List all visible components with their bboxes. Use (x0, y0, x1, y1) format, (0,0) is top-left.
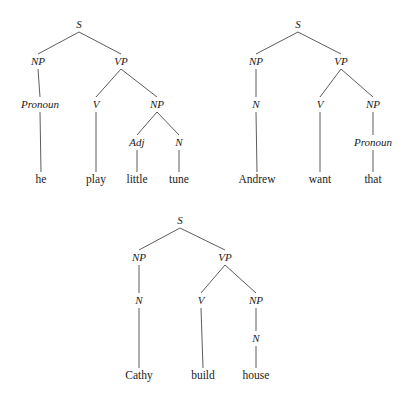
tree-node-label-v: V (317, 98, 325, 110)
tree-node-label-n: N (174, 136, 183, 148)
tree-edges-layer (38, 32, 373, 368)
tree-leaf-edge (256, 112, 257, 172)
tree-node-label-np: NP (131, 251, 146, 263)
tree-edge (137, 112, 157, 135)
tree-node-label-np: NP (248, 294, 263, 306)
tree-leaf-word: that (364, 173, 382, 185)
tree-leaf-word: little (126, 173, 147, 185)
tree-leaf-word: build (191, 369, 215, 381)
tree-node-label-np: NP (30, 55, 45, 67)
tree-node-label-np: NP (248, 55, 263, 67)
tree-leaf-word: Andrew (238, 173, 276, 185)
tree-edge (79, 32, 121, 54)
syntax-tree-diagram-group: SNPVPPronounVNPAdjNheplaylittletuneSNPVP… (0, 0, 409, 400)
tree-edge (157, 112, 179, 135)
tree-edge (38, 69, 40, 97)
tree-node-label-s: S (177, 214, 183, 226)
tree-node-label-pronoun: Pronoun (20, 98, 60, 110)
tree-leaf-word: he (36, 173, 47, 185)
tree-node-label-s: S (76, 18, 82, 30)
tree-leaf-word: tune (169, 173, 189, 185)
tree-leaf-edge (40, 112, 41, 172)
tree-node-label-np: NP (365, 98, 380, 110)
tree-edge (298, 32, 341, 54)
tree-node-label-np: NP (149, 98, 164, 110)
tree-edge (225, 265, 256, 293)
tree-leaf-word: Cathy (125, 369, 153, 382)
tree-edge (121, 69, 157, 97)
tree-labels-layer: SNPVPPronounVNPAdjNheplaylittletuneSNPVP… (20, 18, 393, 382)
tree-edge (201, 265, 225, 293)
tree-edge (96, 69, 121, 97)
tree-node-label-n: N (251, 332, 260, 344)
tree-node-label-s: S (295, 18, 301, 30)
tree-leaf-word: house (243, 369, 270, 381)
tree-node-label-v: V (93, 98, 101, 110)
tree-node-label-pronoun: Pronoun (353, 136, 393, 148)
tree-leaf-word: want (309, 173, 332, 185)
tree-leaf-word: play (86, 173, 106, 186)
tree-edge (38, 32, 79, 54)
tree-leaf-edge (201, 308, 203, 368)
tree-edge (256, 32, 298, 54)
syntax-tree-canvas: SNPVPPronounVNPAdjNheplaylittletuneSNPVP… (0, 0, 409, 400)
tree-node-label-vp: VP (334, 55, 348, 67)
tree-node-label-adj: Adj (128, 136, 144, 148)
tree-node-label-n: N (251, 98, 260, 110)
tree-node-label-v: V (198, 294, 206, 306)
tree-node-label-vp: VP (218, 251, 232, 263)
tree-node-label-vp: VP (114, 55, 128, 67)
tree-edge (139, 228, 180, 250)
tree-edge (180, 228, 225, 250)
tree-edge (320, 69, 341, 97)
tree-node-label-n: N (134, 294, 143, 306)
tree-edge (341, 69, 373, 97)
